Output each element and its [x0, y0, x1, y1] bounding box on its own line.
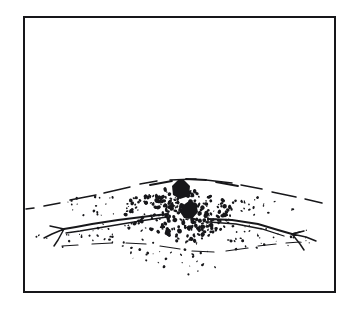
figure-canvas — [0, 0, 353, 309]
gravel-speck — [267, 212, 270, 214]
line-drawing-figure — [0, 0, 353, 309]
gravel-speck — [152, 202, 154, 206]
page-background — [0, 0, 353, 309]
gravel-speck — [276, 241, 277, 242]
gravel-speck — [190, 229, 192, 231]
